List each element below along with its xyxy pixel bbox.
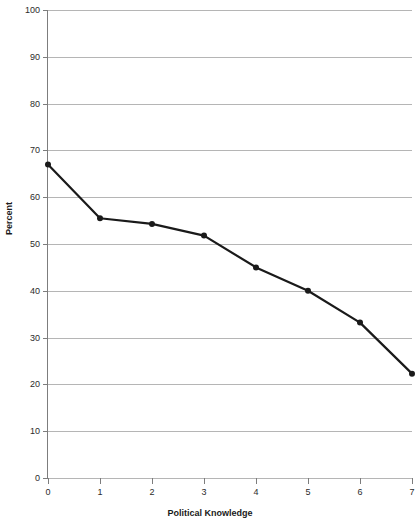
data-point bbox=[97, 215, 103, 221]
y-tick-label: 20 bbox=[8, 379, 40, 389]
x-tick-label: 1 bbox=[97, 487, 102, 497]
y-tick-mark bbox=[43, 10, 48, 11]
y-tick-mark bbox=[43, 104, 48, 105]
x-tick-mark bbox=[256, 478, 257, 484]
y-tick-mark bbox=[43, 57, 48, 58]
data-point bbox=[305, 288, 311, 294]
y-tick-label: 10 bbox=[8, 426, 40, 436]
plot-area bbox=[48, 10, 412, 478]
y-tick-mark bbox=[43, 431, 48, 432]
y-tick-label: 70 bbox=[8, 145, 40, 155]
y-tick-label: 0 bbox=[8, 473, 40, 483]
x-tick-mark bbox=[308, 478, 309, 484]
data-series-line bbox=[48, 10, 412, 478]
line-chart: 0102030405060708090100 01234567 Percent … bbox=[0, 0, 420, 531]
data-point bbox=[409, 371, 415, 377]
y-tick-label: 90 bbox=[8, 52, 40, 62]
series-line bbox=[48, 164, 412, 373]
x-tick-mark bbox=[412, 478, 413, 484]
y-tick-label: 100 bbox=[8, 5, 40, 15]
x-tick-mark bbox=[48, 478, 49, 484]
y-tick-label: 30 bbox=[8, 333, 40, 343]
x-axis-ticks: 01234567 bbox=[48, 478, 412, 508]
x-tick-label: 7 bbox=[409, 487, 414, 497]
data-point bbox=[201, 233, 207, 239]
x-tick-label: 4 bbox=[253, 487, 258, 497]
x-tick-label: 2 bbox=[149, 487, 154, 497]
y-axis-title: Percent bbox=[4, 202, 14, 235]
x-axis-title: Political Knowledge bbox=[0, 508, 420, 518]
x-tick-label: 6 bbox=[357, 487, 362, 497]
y-tick-mark bbox=[43, 244, 48, 245]
y-tick-label: 80 bbox=[8, 99, 40, 109]
data-point bbox=[357, 320, 363, 326]
x-tick-label: 3 bbox=[201, 487, 206, 497]
y-tick-mark bbox=[43, 150, 48, 151]
y-tick-label: 60 bbox=[8, 192, 40, 202]
data-point bbox=[149, 221, 155, 227]
data-point bbox=[253, 264, 259, 270]
y-tick-label: 50 bbox=[8, 239, 40, 249]
x-tick-label: 0 bbox=[45, 487, 50, 497]
x-tick-mark bbox=[204, 478, 205, 484]
x-tick-mark bbox=[152, 478, 153, 484]
data-point bbox=[45, 161, 51, 167]
x-tick-mark bbox=[100, 478, 101, 484]
y-tick-mark bbox=[43, 291, 48, 292]
x-tick-label: 5 bbox=[305, 487, 310, 497]
y-tick-mark bbox=[43, 338, 48, 339]
y-tick-label: 40 bbox=[8, 286, 40, 296]
x-tick-mark bbox=[360, 478, 361, 484]
y-tick-mark bbox=[43, 197, 48, 198]
y-tick-mark bbox=[43, 384, 48, 385]
